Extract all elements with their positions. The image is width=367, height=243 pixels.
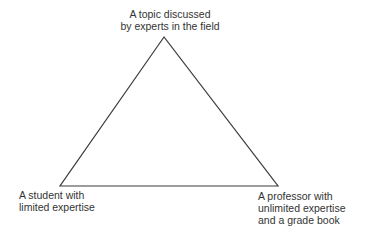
top-label-line-1: A topic discussed [100, 8, 240, 20]
triangle-diagram: A topic discussed by experts in the fiel… [0, 0, 367, 243]
left-label-line-2: limited expertise [19, 201, 95, 213]
bottom-right-vertex-label: A professor with unlimited expertise and… [258, 190, 346, 226]
right-label-line-2: unlimited expertise [258, 202, 346, 214]
right-label-line-3: and a grade book [258, 214, 346, 226]
left-label-line-1: A student with [19, 189, 95, 201]
right-label-line-1: A professor with [258, 190, 346, 202]
top-label-line-2: by experts in the field [100, 20, 240, 32]
top-vertex-label: A topic discussed by experts in the fiel… [100, 8, 240, 32]
bottom-left-vertex-label: A student with limited expertise [19, 189, 95, 213]
